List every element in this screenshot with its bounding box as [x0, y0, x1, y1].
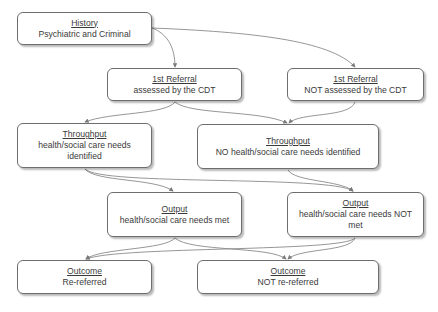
node-title: Output — [162, 204, 188, 215]
node-title: History — [71, 18, 98, 29]
node-text: assessed by the CDT — [133, 85, 215, 96]
node-outcome-rereferred: Outcome Re-referred — [17, 260, 152, 294]
node-history: History Psychiatric and Criminal — [17, 12, 152, 45]
node-throughput-needs: Throughput health/social care needs iden… — [17, 123, 152, 168]
node-outcome-not-rereferred: Outcome NOT re-referred — [197, 260, 379, 294]
node-text: health/social care needs met — [120, 215, 229, 226]
node-text: health/social care needs NOT met — [292, 209, 419, 231]
node-title: Outcome — [271, 266, 306, 277]
node-output-not-met: Output health/social care needs NOT met — [287, 192, 424, 237]
edge-throughput-needs-output-met — [85, 169, 173, 191]
node-text: Re-referred — [63, 277, 107, 288]
edge-history-referral-assessed — [152, 28, 175, 67]
edge-referral-assessed-throughput-needs — [85, 102, 175, 122]
node-referral-assessed: 1st Referral assessed by the CDT — [107, 68, 242, 101]
node-throughput-no-needs: Throughput NO health/social care needs i… — [197, 124, 379, 169]
node-title: Throughput — [63, 129, 107, 140]
node-text: NO health/social care needs identified — [216, 147, 361, 158]
edge-output-not-met-outcome-not-rereferred — [288, 238, 355, 259]
node-text: Psychiatric and Criminal — [38, 29, 130, 40]
flowchart: History Psychiatric and Criminal 1st Ref… — [0, 0, 438, 312]
node-referral-not-assessed: 1st Referral NOT assessed by the CDT — [287, 68, 424, 101]
node-title: Throughput — [266, 136, 310, 147]
edge-referral-not-assessed-throughput-no-needs — [289, 102, 355, 123]
node-title: 1st Referral — [152, 74, 196, 85]
node-text: NOT re-referred — [258, 277, 319, 288]
node-text: health/social care needs identified — [22, 140, 147, 162]
edge-referral-assessed-throughput-no-needs — [175, 102, 287, 123]
node-text: NOT assessed by the CDT — [304, 85, 407, 96]
node-title: Output — [343, 198, 369, 209]
node-output-met: Output health/social care needs met — [107, 192, 242, 237]
node-title: 1st Referral — [333, 74, 377, 85]
node-title: Outcome — [67, 266, 102, 277]
edge-history-referral-not-assessed — [152, 28, 355, 67]
